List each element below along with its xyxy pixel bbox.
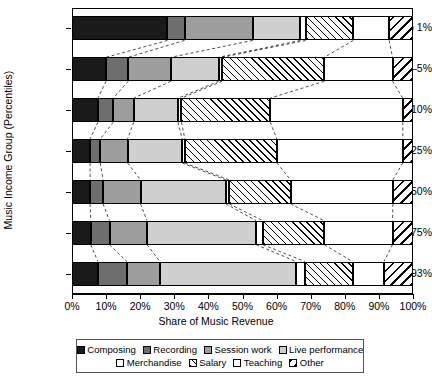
- bar-segment: [171, 57, 219, 81]
- legend-swatch-icon: [233, 359, 241, 367]
- connector-line: [171, 40, 253, 57]
- bar-segment: [160, 262, 296, 286]
- legend-label: Merchandise: [127, 357, 182, 368]
- bar-segment: [128, 57, 171, 81]
- legend-item: Merchandise: [116, 357, 181, 368]
- x-tick-mark: [243, 294, 244, 299]
- bar-segment: [90, 180, 103, 204]
- legend-item: Teaching: [233, 357, 282, 368]
- bar-segment: [291, 180, 393, 204]
- bar-segment: [72, 262, 98, 286]
- bar-segment: [72, 98, 98, 122]
- x-tick-mark: [413, 294, 414, 299]
- connector-line: [103, 204, 109, 221]
- connector-line: [324, 245, 352, 262]
- legend-item: Salary: [189, 357, 227, 368]
- bar-segment: [128, 139, 183, 163]
- y-tick-mark: [66, 110, 71, 111]
- bar-segment: [181, 98, 270, 122]
- connector-line: [256, 245, 296, 262]
- connector-line: [229, 204, 263, 221]
- bar-segment: [98, 262, 127, 286]
- legend-swatch-icon: [143, 346, 151, 354]
- connector-line: [182, 163, 226, 180]
- bar-segment: [222, 57, 324, 81]
- legend-row-1: ComposingRecordingSession workLive perfo…: [81, 343, 359, 356]
- legend-label: Live performance: [289, 344, 363, 355]
- x-tick-mark: [174, 294, 175, 299]
- legend-swatch-icon: [279, 346, 287, 354]
- x-tick-label: 100%: [393, 300, 432, 312]
- bar-segment: [100, 139, 127, 163]
- connector-line: [222, 40, 306, 57]
- x-tick-mark: [140, 294, 141, 299]
- connector-line: [100, 122, 113, 139]
- legend-item: Live performance: [279, 344, 364, 355]
- connector-line: [113, 81, 128, 98]
- chart-root: Music Income Group (Percentiles) Top 1%2…: [0, 0, 432, 382]
- plot-area: [72, 8, 413, 294]
- legend-item: Session work: [204, 344, 272, 355]
- bar-6: [72, 262, 413, 286]
- connector-line: [219, 40, 301, 57]
- legend-row-2: MerchandiseSalaryTeachingOther: [81, 356, 359, 369]
- connector-line: [277, 163, 291, 180]
- connector-line: [90, 122, 98, 139]
- legend-label: Recording: [153, 344, 197, 355]
- connector-line: [263, 245, 305, 262]
- bar-5: [72, 221, 413, 245]
- bar-segment: [305, 262, 353, 286]
- bar-segment: [72, 180, 90, 204]
- bar-segment: [403, 139, 413, 163]
- bar-1: [72, 57, 413, 81]
- bar-segment: [393, 221, 413, 245]
- legend-swatch-icon: [77, 346, 85, 354]
- connector-line: [128, 163, 141, 180]
- x-tick-mark: [208, 294, 209, 299]
- bar-segment: [353, 16, 389, 40]
- bar-segment: [393, 57, 413, 81]
- connector-line: [291, 204, 325, 221]
- bar-4: [72, 180, 413, 204]
- y-tick-mark: [66, 28, 71, 29]
- connector-line: [90, 204, 91, 221]
- connector-line: [393, 81, 403, 98]
- legend-item: Recording: [143, 344, 197, 355]
- bar-segment: [403, 98, 413, 122]
- y-tick-mark: [66, 192, 71, 193]
- x-tick-mark: [345, 294, 346, 299]
- bar-segment: [147, 221, 256, 245]
- bar-segment: [306, 16, 354, 40]
- x-tick-mark: [311, 294, 312, 299]
- bar-segment: [72, 221, 91, 245]
- bar-segment: [91, 221, 110, 245]
- connector-line: [134, 81, 171, 98]
- connector-line: [91, 245, 98, 262]
- legend-swatch-icon: [289, 359, 297, 367]
- bar-segment: [353, 262, 384, 286]
- y-axis-title: Music Income Group (Percentiles): [2, 0, 16, 300]
- bar-segment: [263, 221, 324, 245]
- connector-line: [270, 81, 324, 98]
- bar-segment: [106, 57, 128, 81]
- legend-label: Salary: [199, 357, 226, 368]
- bar-segment: [185, 139, 277, 163]
- legend-swatch-icon: [204, 346, 212, 354]
- connector-line: [147, 245, 160, 262]
- bar-segment: [256, 221, 263, 245]
- x-tick-mark: [277, 294, 278, 299]
- bar-segment: [113, 98, 133, 122]
- bar-segment: [167, 16, 184, 40]
- y-tick-mark: [66, 69, 71, 70]
- bar-segment: [324, 57, 392, 81]
- connector-line: [141, 204, 147, 221]
- legend-label: Session work: [215, 344, 272, 355]
- bar-segment: [110, 221, 148, 245]
- bar-segment: [229, 180, 290, 204]
- legend-swatch-icon: [116, 359, 124, 367]
- connector-line: [270, 122, 277, 139]
- connector-line: [100, 163, 103, 180]
- bar-3: [72, 139, 413, 163]
- bar-segment: [134, 98, 178, 122]
- connector-line: [128, 40, 184, 57]
